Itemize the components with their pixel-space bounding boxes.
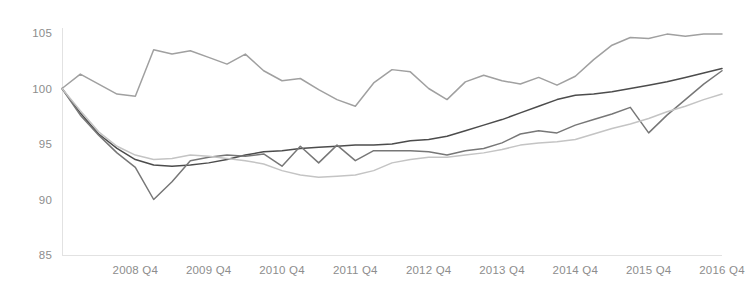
- x-tick-label: 2008 Q4: [113, 264, 159, 276]
- y-tick-label: 85: [24, 249, 52, 261]
- x-tick-label: 2016 Q4: [699, 264, 745, 276]
- y-tick-label: 100: [24, 83, 52, 95]
- x-tick-label: 2014 Q4: [553, 264, 599, 276]
- x-tick-label: 2013 Q4: [479, 264, 525, 276]
- x-tick-label: 2009 Q4: [186, 264, 232, 276]
- x-tick-label: 2015 Q4: [626, 264, 672, 276]
- x-tick-label: 2012 Q4: [406, 264, 452, 276]
- series-line-series-1-light-top: [62, 34, 722, 106]
- y-tick-label: 95: [24, 138, 52, 150]
- x-tick-label: 2010 Q4: [259, 264, 305, 276]
- series-line-series-2-dark: [62, 69, 722, 167]
- x-tick-label: 2011 Q4: [333, 264, 378, 276]
- y-tick-label: 105: [24, 27, 52, 39]
- y-tick-label: 90: [24, 194, 52, 206]
- series-line-series-4-lightest: [62, 89, 722, 178]
- series-group: [62, 34, 722, 199]
